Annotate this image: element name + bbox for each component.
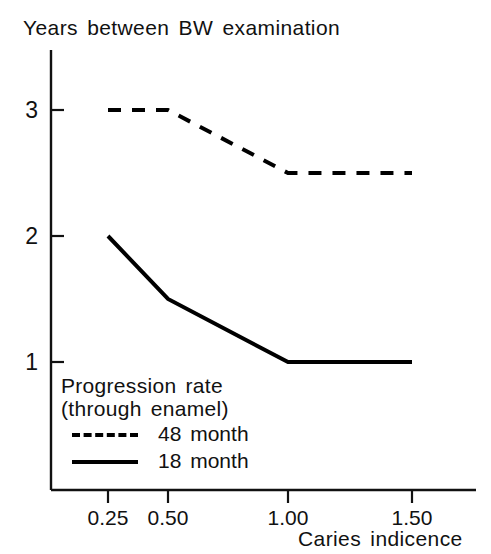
x-tick-label-0-50: 0.50 bbox=[133, 506, 203, 530]
legend-label-18-month: 18 month bbox=[158, 449, 249, 473]
legend-entry-48-month: 48 month bbox=[61, 422, 321, 447]
series-line-18-month bbox=[108, 236, 412, 362]
solid-line-swatch-icon bbox=[72, 460, 138, 464]
legend-title-line-1: Progression rate bbox=[61, 374, 321, 397]
legend-entry-18-month: 18 month bbox=[61, 449, 321, 474]
x-axis-title: Caries indicence bbox=[298, 527, 463, 551]
series-line-48-month bbox=[108, 110, 412, 173]
legend-title-line-2: (through enamel) bbox=[61, 397, 321, 420]
chart-legend: Progression rate (through enamel) 48 mon… bbox=[61, 374, 321, 474]
chart-figure: Years between BW examination 3 2 1 0.25 … bbox=[0, 0, 491, 554]
y-tick-label-1: 1 bbox=[10, 349, 38, 376]
y-tick-label-2: 2 bbox=[10, 223, 38, 250]
y-tick-label-3: 3 bbox=[10, 97, 38, 124]
legend-label-48-month: 48 month bbox=[158, 422, 249, 446]
dashed-line-swatch-icon bbox=[72, 433, 138, 437]
